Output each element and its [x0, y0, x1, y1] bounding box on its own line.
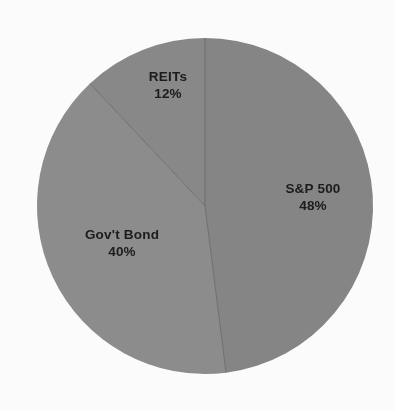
pie-label-sp-500-name: S&P 500 — [258, 180, 368, 197]
pie-label-govt-bond-name: Gov't Bond — [62, 226, 182, 243]
pie-label-reits: REITs 12% — [118, 68, 218, 103]
pie-label-reits-value: 12% — [118, 85, 218, 102]
pie-chart: S&P 500 48% Gov't Bond 40% REITs 12% — [0, 0, 395, 410]
pie-label-reits-name: REITs — [118, 68, 218, 85]
pie-label-sp-500: S&P 500 48% — [258, 180, 368, 215]
pie-label-govt-bond: Gov't Bond 40% — [62, 226, 182, 261]
pie-label-govt-bond-value: 40% — [62, 243, 182, 260]
pie-label-sp-500-value: 48% — [258, 197, 368, 214]
